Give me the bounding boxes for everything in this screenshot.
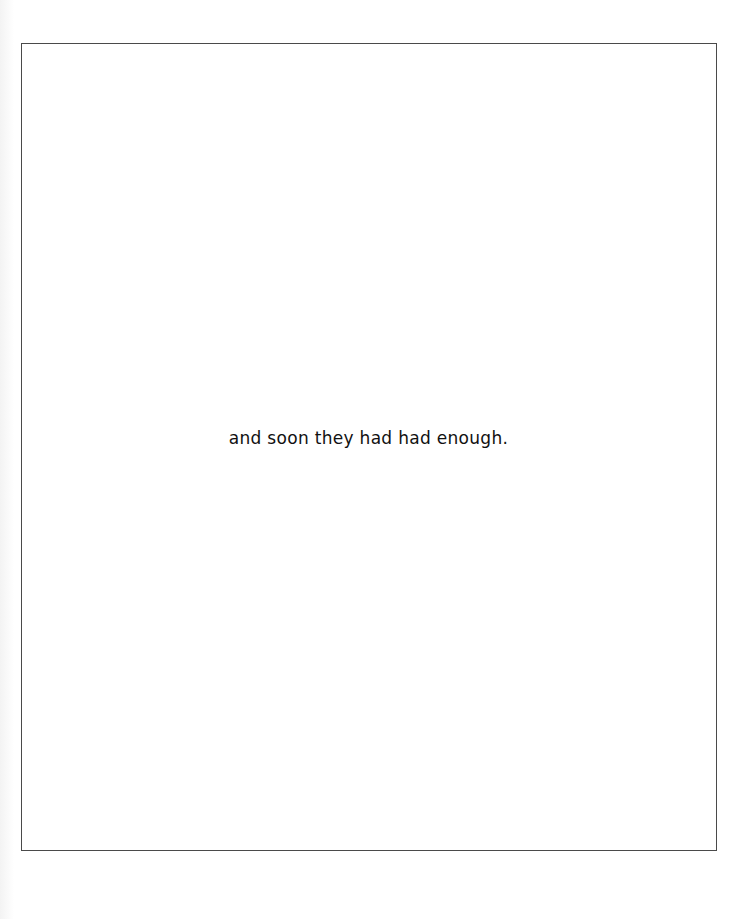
page-edge-shadow xyxy=(0,0,14,919)
story-text: and soon they had had enough. xyxy=(0,428,737,448)
